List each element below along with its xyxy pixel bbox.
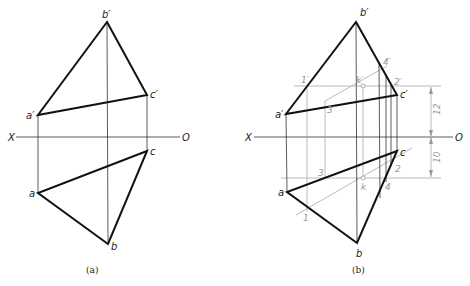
label-1-prime: 1′: [301, 75, 309, 85]
arrow-icon: [429, 170, 433, 177]
label-b: b: [111, 241, 117, 252]
label-c-prime: c′: [150, 89, 158, 100]
label-o-b: O: [455, 132, 463, 143]
drawing-canvas: b′ c′ a′ X O c a b (a): [0, 0, 470, 286]
point-k: [361, 176, 365, 180]
label-1: 1: [303, 213, 309, 223]
front-triangle-b: [286, 22, 397, 114]
arrow-icon: [429, 130, 433, 137]
label-o: O: [182, 132, 190, 143]
label-k-prime: k′: [356, 75, 363, 85]
label-a-b: a: [278, 187, 284, 198]
label-3: 3: [318, 168, 324, 178]
arrow-icon: [429, 137, 433, 144]
label-a: a: [29, 188, 35, 199]
label-2: 2: [395, 164, 401, 174]
label-x: X: [7, 132, 16, 143]
figure-b: 12 10 b′ c′ a′ X O c a b 1′ 3′ k′ 4′ 2′ …: [244, 7, 463, 275]
label-x-b: X: [244, 132, 253, 143]
dimension-10: 10: [432, 151, 442, 163]
label-c: c: [150, 146, 156, 157]
projector-b: [107, 22, 108, 244]
label-k: k: [361, 182, 367, 192]
label-4-prime: 4′: [383, 57, 391, 67]
figure-a: b′ c′ a′ X O c a b (a): [7, 9, 190, 275]
label-4: 4: [385, 182, 391, 192]
label-2-prime: 2′: [394, 77, 402, 87]
dimension-12: 12: [432, 103, 442, 115]
label-c-prime-b: c′: [400, 89, 408, 100]
label-3-prime: 3′: [327, 105, 335, 115]
label-c-b: c: [400, 147, 406, 158]
label-b-prime: b′: [102, 9, 111, 20]
front-triangle: [38, 22, 147, 115]
caption-a: (a): [86, 265, 98, 275]
projector-b-b: [356, 22, 357, 243]
top-triangle-b: [287, 151, 397, 243]
label-a-prime: a′: [26, 110, 35, 121]
caption-b: (b): [352, 265, 365, 275]
label-b-b: b: [356, 248, 362, 259]
top-triangle: [38, 151, 147, 244]
projector-a-b: [286, 114, 287, 192]
label-a-prime-b: a′: [275, 109, 284, 120]
label-b-prime-b: b′: [360, 7, 369, 18]
arrow-icon: [429, 87, 433, 94]
